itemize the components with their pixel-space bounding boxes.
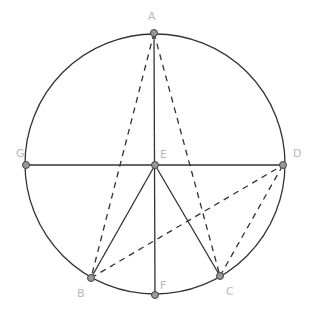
point-E	[152, 162, 159, 169]
label-E: E	[160, 148, 167, 161]
segment-EB	[91, 165, 155, 278]
segment-CD	[220, 165, 283, 276]
point-G	[23, 162, 30, 169]
segment-BD	[91, 165, 283, 278]
label-A: A	[148, 10, 156, 23]
label-B: B	[77, 287, 85, 300]
point-D	[280, 162, 287, 169]
point-C	[217, 273, 224, 280]
label-F: F	[160, 279, 166, 292]
label-G: G	[16, 147, 25, 160]
point-F	[152, 292, 159, 299]
dashed-segments	[91, 33, 283, 278]
point-B	[88, 275, 95, 282]
label-C: C	[226, 285, 234, 298]
geometry-diagram: ABCDEFG	[0, 0, 315, 317]
point-labels: ABCDEFG	[16, 10, 301, 300]
segment-AB	[91, 33, 154, 278]
label-D: D	[293, 147, 301, 160]
point-A	[151, 30, 158, 37]
